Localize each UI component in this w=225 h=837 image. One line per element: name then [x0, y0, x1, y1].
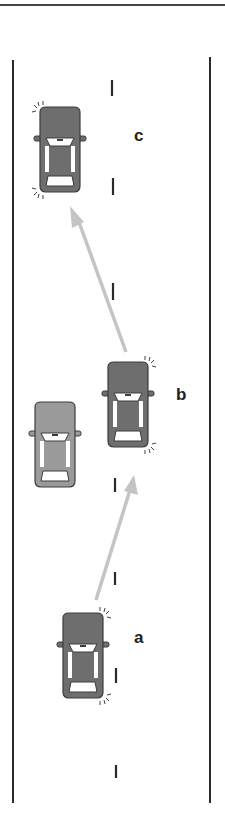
- car-b: [102, 356, 156, 454]
- overtaking-diagram: [0, 0, 225, 837]
- arrow-b-to-c: [70, 206, 126, 352]
- arrow-a-to-b: [96, 475, 138, 600]
- car-a: [57, 607, 111, 705]
- car-c: [32, 101, 86, 199]
- label-a: a: [134, 628, 143, 648]
- label-b: b: [176, 385, 186, 405]
- overtaken-car: [29, 402, 81, 487]
- label-c: c: [134, 126, 143, 146]
